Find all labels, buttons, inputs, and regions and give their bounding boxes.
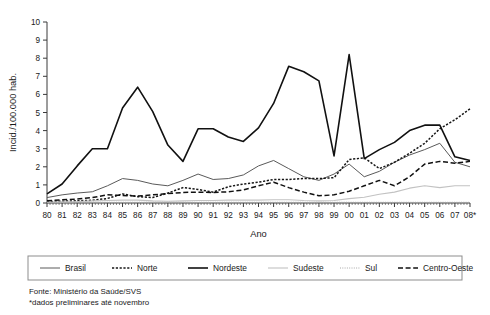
x-tick-label: 05	[420, 211, 430, 220]
x-tick-label: 01	[360, 211, 370, 220]
x-tick-label: 04	[405, 211, 415, 220]
series-line-nordeste	[47, 55, 470, 194]
x-tick-label: 94	[254, 211, 264, 220]
y-tick-label: 3	[35, 145, 40, 154]
legend-label-sudeste: Sudeste	[293, 263, 324, 273]
x-tick-label: 91	[209, 211, 219, 220]
y-axis-title: Incid./100.000 hab.	[8, 73, 18, 152]
y-tick-label: 4	[35, 127, 40, 136]
x-tick-label: 02	[375, 211, 385, 220]
y-tick-label: 0	[35, 199, 40, 208]
legend-label-norte: Norte	[137, 263, 158, 273]
x-tick-label: 86	[133, 211, 143, 220]
legend-label-brasil: Brasil	[65, 263, 86, 273]
x-tick-label: 85	[118, 211, 128, 220]
x-tick-label: 83	[88, 211, 98, 220]
x-tick-label: 80	[42, 211, 52, 220]
y-tick-label: 9	[35, 36, 40, 45]
x-tick-label: 03	[390, 211, 400, 220]
y-tick-label: 10	[31, 18, 41, 27]
x-tick-label: 97	[299, 211, 309, 220]
legend-label-centro-oeste: Centro-Oeste	[423, 263, 474, 273]
x-tick-label: 82	[73, 211, 83, 220]
incidence-line-chart: 0123456789108081828384858687888990919293…	[0, 0, 490, 315]
series-line-sudeste	[47, 186, 470, 202]
x-tick-label: 87	[148, 211, 158, 220]
x-axis-title: Ano	[250, 229, 267, 239]
y-tick-label: 7	[35, 72, 40, 81]
x-tick-label: 90	[194, 211, 204, 220]
y-tick-label: 6	[35, 90, 40, 99]
chart-figure: 0123456789108081828384858687888990919293…	[0, 0, 490, 315]
x-tick-label: 92	[224, 211, 234, 220]
y-tick-label: 1	[35, 181, 40, 190]
footnote-source: Fonte: Ministério da Saúde/SVS	[29, 287, 141, 296]
x-tick-label: 08*	[464, 211, 477, 220]
x-tick-label: 06	[435, 211, 445, 220]
x-tick-label: 93	[239, 211, 249, 220]
y-tick-label: 5	[35, 109, 40, 118]
series-line-centro-oeste	[47, 161, 470, 200]
y-tick-label: 2	[35, 163, 40, 172]
x-tick-label: 84	[103, 211, 113, 220]
x-tick-label: 88	[163, 211, 173, 220]
legend-label-nordeste: Nordeste	[213, 263, 247, 273]
series-line-norte	[47, 109, 470, 202]
x-tick-label: 00	[345, 211, 355, 220]
y-tick-label: 8	[35, 54, 40, 63]
x-tick-label: 96	[284, 211, 294, 220]
x-tick-label: 99	[329, 211, 339, 220]
x-tick-label: 89	[178, 211, 188, 220]
x-tick-label: 95	[269, 211, 279, 220]
x-tick-label: 81	[58, 211, 68, 220]
footnote-note: *dados preliminares até novembro	[29, 298, 150, 307]
x-tick-label: 07	[450, 211, 460, 220]
x-tick-label: 98	[314, 211, 324, 220]
legend-label-sul: Sul	[365, 263, 377, 273]
